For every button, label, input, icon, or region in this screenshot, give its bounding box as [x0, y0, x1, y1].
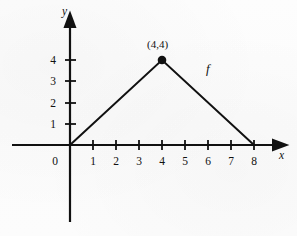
y-tick-label-1: 1	[46, 119, 60, 131]
plot-canvas	[0, 0, 297, 236]
origin-tick-label: 0	[48, 156, 62, 168]
x-tick-label-8: 8	[247, 156, 261, 168]
x-tick-label-2: 2	[109, 156, 123, 168]
y-tick-label-2: 2	[46, 98, 60, 110]
y-tick-label-3: 3	[46, 76, 60, 88]
vertex-coordinate-label: (4,4)	[147, 39, 168, 50]
vertex-point-marker	[158, 56, 167, 65]
function-curve-f	[70, 60, 254, 145]
function-name-label: f	[206, 62, 210, 75]
y-tick-label-4: 4	[46, 55, 60, 67]
x-tick-label-7: 7	[224, 156, 238, 168]
x-axis-label: x	[279, 150, 284, 162]
x-tick-label-3: 3	[132, 156, 146, 168]
function-graph-figure: y x 0 1 2 3 4 5 6 7 8 1 2 3 4 (4,4) f	[0, 0, 297, 236]
y-axis-label: y	[62, 6, 67, 18]
x-tick-label-4: 4	[155, 156, 169, 168]
x-tick-label-1: 1	[86, 156, 100, 168]
x-tick-label-6: 6	[201, 156, 215, 168]
x-tick-label-5: 5	[178, 156, 192, 168]
